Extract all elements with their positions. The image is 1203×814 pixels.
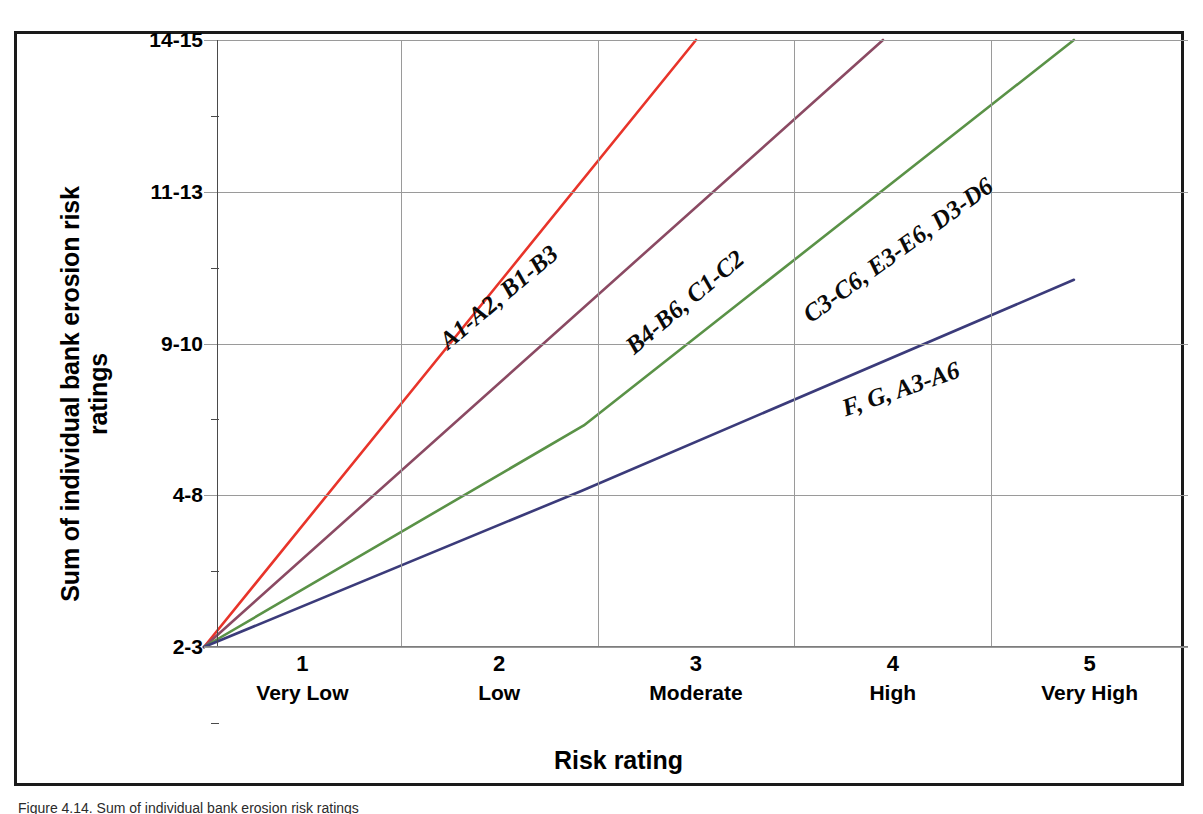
gridline-horizontal	[204, 647, 1188, 648]
gridline-vertical	[794, 40, 795, 647]
x-axis-title: Risk rating	[17, 746, 1203, 775]
gridline-horizontal	[204, 40, 1188, 41]
plot-inner	[204, 40, 1188, 647]
x-tick-group: 5Very High	[991, 650, 1188, 708]
y-tick-label: 4-8	[99, 484, 203, 505]
plot-area: A1-A2, B1-B3B4-B6, C1-C2C3-C6, E3-E6, D3…	[204, 40, 1188, 647]
x-tick-word: High	[794, 678, 991, 708]
x-tick-number: 5	[991, 650, 1188, 678]
gridline-horizontal	[204, 192, 1188, 193]
figure-caption: Figure 4.14. Sum of individual bank eros…	[18, 800, 1188, 814]
x-tick-number: 1	[204, 650, 401, 678]
figure-container: Sum of individual bank erosion risk rati…	[0, 0, 1203, 814]
y-axis-tick	[211, 419, 219, 420]
gridline-vertical	[991, 40, 992, 647]
x-tick-group: 2Low	[401, 650, 598, 708]
y-axis-line	[217, 40, 218, 647]
y-tick-label: 11-13	[99, 181, 203, 202]
x-tick-number: 4	[794, 650, 991, 678]
chart-frame: Sum of individual bank erosion risk rati…	[14, 31, 1184, 786]
y-axis-title-line-1: Sum of individual bank erosion risk	[56, 186, 84, 601]
x-axis-line	[204, 646, 1188, 647]
y-tick-label: 9-10	[99, 333, 203, 354]
gridline-horizontal	[204, 495, 1188, 496]
y-axis-tick-labels: 2-3 4-8 9-10 11-13 14-15	[95, 34, 203, 789]
x-tick-group: 4High	[794, 650, 991, 708]
gridline-horizontal	[204, 344, 1188, 345]
x-tick-word: Moderate	[598, 678, 795, 708]
y-axis-tick	[211, 116, 219, 117]
y-axis-tick	[211, 268, 219, 269]
gridline-vertical	[401, 40, 402, 647]
x-tick-number: 2	[401, 650, 598, 678]
x-tick-group: 3Moderate	[598, 650, 795, 708]
y-tick-label: 14-15	[99, 29, 203, 50]
x-tick-word: Very High	[991, 678, 1188, 708]
y-tick-label: 2-3	[99, 636, 203, 657]
x-axis-tick-labels: 1Very Low2Low3Moderate4High5Very High	[204, 650, 1188, 730]
x-tick-word: Very Low	[204, 678, 401, 708]
x-tick-number: 3	[598, 650, 795, 678]
y-axis-tick	[211, 571, 219, 572]
x-tick-word: Low	[401, 678, 598, 708]
gridline-vertical	[598, 40, 599, 647]
x-tick-group: 1Very Low	[204, 650, 401, 708]
